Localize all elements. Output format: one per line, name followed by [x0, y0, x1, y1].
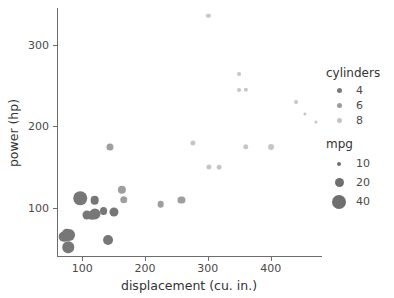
legend-item-label: 20 [352, 176, 370, 189]
data-point [100, 207, 108, 215]
y-axis-line [57, 8, 58, 257]
legend-item[interactable]: 40 [326, 192, 392, 211]
legend-dot-icon [332, 195, 346, 209]
legend-swatch-cell [326, 195, 352, 209]
data-point [217, 165, 222, 170]
data-point [243, 87, 247, 91]
x-tick-mark [145, 257, 146, 261]
legend-item[interactable]: 8 [326, 113, 392, 128]
legend-dot-icon [337, 103, 342, 108]
legend-swatch-cell [326, 88, 352, 93]
x-tick-label: 100 [72, 262, 93, 275]
y-tick-label: 200 [28, 120, 49, 133]
x-tick-label: 300 [197, 262, 218, 275]
data-point [314, 121, 317, 124]
scatter-plot-area [57, 8, 321, 257]
data-point [63, 229, 75, 241]
x-axis-title: displacement (cu. in.) [121, 278, 257, 293]
x-tick-label: 400 [260, 262, 281, 275]
x-tick-mark [82, 257, 83, 261]
legend-dot-icon [337, 88, 342, 93]
data-point [207, 165, 212, 170]
legend-dot-icon [337, 162, 341, 166]
data-point [294, 100, 298, 104]
x-tick-mark [208, 257, 209, 261]
x-axis-line [57, 256, 322, 257]
legend-title-cylinders: cylinders [326, 66, 392, 80]
legend-item-label: 4 [352, 84, 363, 97]
legend-swatch-cell [326, 178, 352, 187]
chart-page: 100200300400 100200300 displacement (cu.… [0, 0, 394, 298]
x-tick-mark [271, 257, 272, 261]
legend-title-mpg: mpg [326, 137, 392, 151]
data-point [120, 196, 128, 204]
legend-item[interactable]: 4 [326, 83, 392, 98]
legend-item-label: 8 [352, 114, 363, 127]
legend-swatch-cell [326, 118, 352, 123]
data-point [237, 88, 241, 92]
data-point [63, 241, 75, 253]
data-point [190, 140, 195, 145]
legend-dot-icon [335, 178, 344, 187]
y-axis-title: power (hp) [6, 99, 21, 167]
legend-dot-icon [337, 118, 342, 123]
data-point [106, 143, 113, 150]
data-point [90, 196, 99, 205]
data-point [118, 186, 126, 194]
data-point [243, 144, 249, 150]
x-tick-label: 200 [135, 262, 156, 275]
legend-swatch-cell [326, 103, 352, 108]
data-point [304, 113, 307, 116]
legend-item[interactable]: 6 [326, 98, 392, 113]
data-point [268, 144, 274, 150]
data-point [157, 201, 164, 208]
data-point [237, 72, 241, 76]
legend-group-cylinders: cylinders 468 [326, 66, 392, 128]
data-point [178, 196, 185, 203]
legend-item-label: 6 [352, 99, 363, 112]
legend-rows-cylinders: 468 [326, 83, 392, 128]
y-tick-mark [53, 208, 57, 209]
legend-swatch-cell [326, 162, 352, 166]
legend-item-label: 10 [352, 157, 370, 170]
data-point [103, 235, 113, 245]
y-tick-label: 300 [28, 38, 49, 51]
y-tick-label: 100 [28, 202, 49, 215]
legend-group-mpg: mpg 102040 [326, 137, 392, 211]
legend-item-label: 40 [352, 195, 370, 208]
data-point [110, 208, 119, 217]
legend-item[interactable]: 10 [326, 154, 392, 173]
data-point [74, 191, 88, 205]
legend-item[interactable]: 20 [326, 173, 392, 192]
legend-rows-mpg: 102040 [326, 154, 392, 211]
data-point [206, 14, 210, 18]
y-tick-mark [53, 45, 57, 46]
chart-legend: cylinders 468 mpg 102040 [326, 66, 392, 217]
y-tick-mark [53, 126, 57, 127]
